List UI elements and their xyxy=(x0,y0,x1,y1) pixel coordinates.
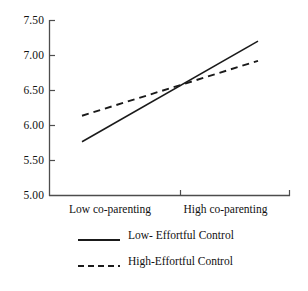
y-tick-label-600: 6.00 xyxy=(8,120,44,132)
legend-label-low-effortful-control: Low- Effortful Control xyxy=(128,230,234,242)
y-tick-label-500: 5.00 xyxy=(8,190,44,202)
y-tick-label-700: 7.00 xyxy=(8,50,44,62)
legend-swatch-solid-line xyxy=(78,234,120,246)
chart-legend: Low- Effortful Control High-Effortful Co… xyxy=(0,228,308,280)
series-line-low-effortful-control xyxy=(82,41,258,142)
y-tick-label-650: 6.50 xyxy=(8,85,44,97)
y-axis-ticks xyxy=(50,21,56,161)
x-tick-label-low-coparenting: Low co-parenting xyxy=(55,204,165,216)
y-tick-label-750: 7.50 xyxy=(8,15,44,27)
legend-label-high-effortful-control: High-Effortful Control xyxy=(128,256,233,268)
legend-item-high-effortful-control: High-Effortful Control xyxy=(0,254,308,280)
y-tick-label-550: 5.50 xyxy=(8,155,44,167)
legend-swatch-dashed-line xyxy=(78,260,120,272)
legend-item-low-effortful-control: Low- Effortful Control xyxy=(0,228,308,254)
series-line-high-effortful-control xyxy=(82,61,258,116)
x-tick-label-high-coparenting: High co-parenting xyxy=(168,204,283,216)
chart-figure: 7.50 7.00 6.50 6.00 5.50 5.00 Low co-par… xyxy=(0,0,308,291)
